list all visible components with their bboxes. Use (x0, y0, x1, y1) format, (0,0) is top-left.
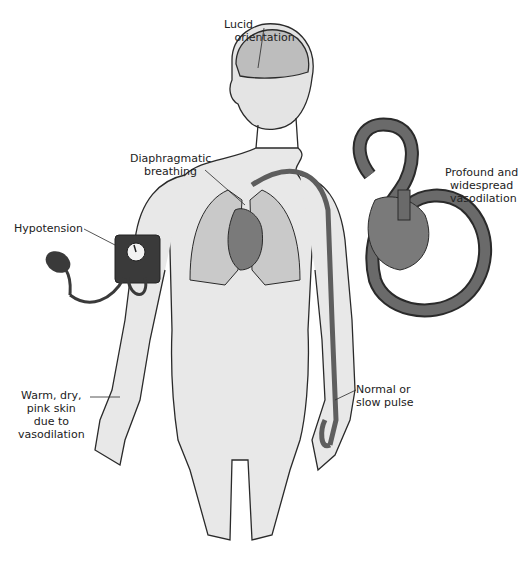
label-skin: Warm, dry, pink skin due to vasodilation (18, 389, 85, 441)
body-illustration (0, 0, 531, 562)
label-diaphragmatic-breathing: Diaphragmatic breathing (130, 152, 211, 178)
heart (228, 209, 263, 270)
bp-bulb (42, 247, 75, 277)
label-hypotension: Hypotension (14, 222, 83, 235)
neurogenic-shock-diagram: Lucid orientation Diaphragmatic breathin… (0, 0, 531, 562)
vasodilation-loop (360, 124, 486, 310)
label-pulse: Normal or slow pulse (356, 383, 414, 409)
label-lucid-orientation: Lucid orientation (224, 18, 295, 44)
label-vasodilation: Profound and widespread vasodilation (445, 166, 518, 205)
